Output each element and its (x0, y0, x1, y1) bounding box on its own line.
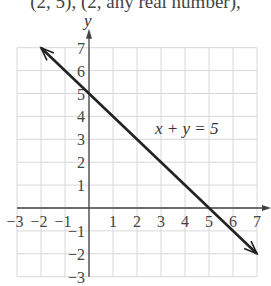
coordinate-graph: y−3−2−112345677654321−1−2−3x + y = 5 (0, 0, 271, 286)
x-tick-label: 4 (181, 213, 189, 230)
y-axis-label: y (82, 11, 92, 30)
y-axis-arrow-icon (86, 29, 92, 39)
y-tick-label: 6 (77, 63, 85, 80)
x-tick-label: 2 (133, 213, 141, 230)
x-tick-label: −2 (30, 213, 47, 230)
y-tick-label: 3 (77, 131, 85, 148)
y-tick-label: 4 (77, 108, 85, 125)
x-tick-label: −3 (6, 213, 23, 230)
y-tick-label: −1 (68, 223, 85, 240)
equation-label: x + y = 5 (154, 119, 219, 138)
x-tick-label: 1 (109, 213, 117, 230)
y-tick-label: −3 (68, 269, 85, 286)
y-tick-label: 7 (77, 40, 85, 57)
x-tick-label: 7 (253, 213, 261, 230)
y-tick-label: −2 (68, 246, 85, 263)
x-tick-label: 3 (157, 213, 165, 230)
x-tick-label: 5 (205, 213, 213, 230)
x-axis-arrow-icon (262, 205, 271, 211)
y-tick-label: 2 (77, 154, 85, 171)
y-tick-label: 1 (77, 177, 85, 194)
